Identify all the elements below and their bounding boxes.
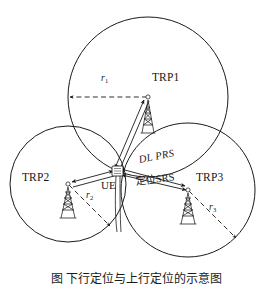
- radius-arrow-r3: [189, 191, 236, 238]
- label-radius-r2: r2: [86, 191, 93, 201]
- label-trp3: TRP3: [196, 172, 223, 184]
- label-radius-r3: r3: [209, 203, 216, 213]
- ue-device-icon: [112, 166, 123, 176]
- label-radius-r1: r1: [101, 74, 108, 84]
- cell-tower-icon-trp2: [60, 182, 77, 218]
- figure-caption: 图 下行定位与上行定位的示意图: [0, 269, 272, 287]
- label-trp2: TRP2: [22, 172, 49, 184]
- label-trp1: TRP1: [152, 72, 179, 84]
- cell-tower-icon-trp1: [141, 95, 156, 133]
- cell-tower-icon-trp3: [180, 188, 197, 224]
- label-ue: UE: [101, 180, 116, 191]
